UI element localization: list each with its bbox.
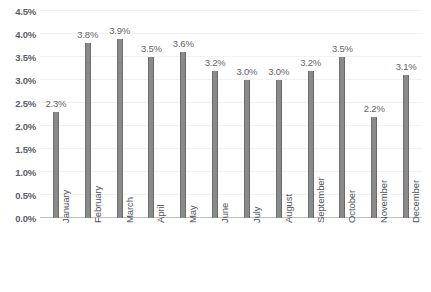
bar-rect (212, 71, 218, 218)
y-axis-tick-label: 1.5% (0, 144, 36, 155)
gridline (40, 79, 422, 80)
y-axis-tick-label: 0.5% (0, 190, 36, 201)
bar: 3.2% (212, 71, 218, 218)
gridline (40, 125, 422, 126)
y-axis-tick-label: 2.5% (0, 98, 36, 109)
x-axis-tick-label: June (219, 203, 230, 223)
bar-value-label: 3.9% (98, 25, 142, 36)
x-axis-tick-label: May (187, 205, 198, 223)
y-axis-tick-label: 3.5% (0, 52, 36, 63)
x-axis-tick-label: January (60, 190, 71, 223)
y-axis-tick-label: 4.5% (0, 6, 36, 17)
y-axis-tick-label: 2.0% (0, 121, 36, 132)
bar-value-label: 3.2% (289, 57, 333, 68)
x-axis-tick-label: November (378, 180, 389, 223)
bar-rect (148, 57, 154, 218)
bar: 3.1% (403, 75, 409, 218)
gridline (40, 171, 422, 172)
bar: 3.5% (148, 57, 154, 218)
bar: 3.0% (244, 80, 250, 218)
bar-rect (53, 112, 59, 218)
bar: 3.5% (339, 57, 345, 218)
bar-value-label: 3.6% (161, 38, 205, 49)
y-axis-tick-label: 0.0% (0, 213, 36, 224)
bar-chart: 0.0%0.5%1.0%1.5%2.0%2.5%3.0%3.5%4.0%4.5%… (0, 0, 431, 292)
bar-rect (276, 80, 282, 218)
x-axis-tick-label: August (283, 194, 294, 223)
x-axis-tick-label: April (155, 204, 166, 223)
bar: 3.2% (308, 71, 314, 218)
bar: 3.8% (85, 43, 91, 218)
bar-value-label: 2.3% (34, 98, 78, 109)
bar-rect (308, 71, 314, 218)
x-axis-tick-label: October (346, 190, 357, 223)
x-axis-tick-label: July (251, 207, 262, 224)
bar-value-label: 3.5% (320, 43, 364, 54)
gridline (40, 10, 422, 11)
bar-value-label: 2.2% (352, 103, 396, 114)
gridline (40, 148, 422, 149)
y-axis-tick-label: 4.0% (0, 29, 36, 40)
bar-rect (339, 57, 345, 218)
bar-rect (117, 39, 123, 218)
bar: 3.6% (180, 52, 186, 218)
bar-rect (371, 117, 377, 218)
x-axis-tick-label: December (410, 180, 421, 223)
bar: 3.9% (117, 39, 123, 218)
bar-rect (85, 43, 91, 218)
bar: 2.3% (53, 112, 59, 218)
bar: 3.0% (276, 80, 282, 218)
bar-rect (244, 80, 250, 218)
x-axis-tick-label: February (92, 186, 103, 223)
bar-value-label: 3.1% (384, 61, 428, 72)
bar-rect (403, 75, 409, 218)
x-axis-tick-label: September (315, 177, 326, 223)
x-axis-tick-label: March (124, 197, 135, 223)
y-axis-tick-label: 3.0% (0, 75, 36, 86)
bar: 2.2% (371, 117, 377, 218)
y-axis-tick-label: 1.0% (0, 167, 36, 178)
bar-rect (180, 52, 186, 218)
